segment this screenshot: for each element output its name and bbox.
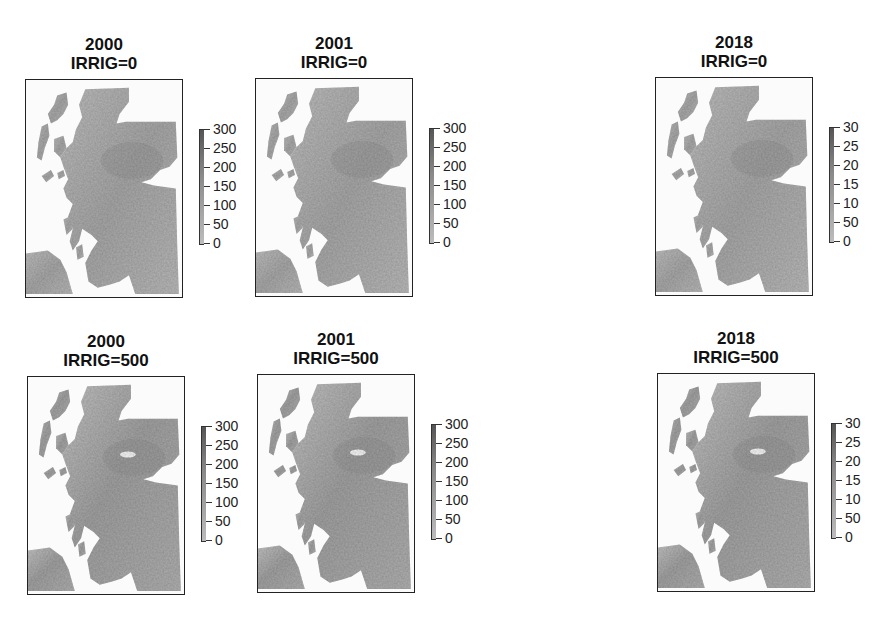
legend-tick	[434, 166, 440, 167]
mainland-region	[290, 87, 409, 293]
legend-tick-label: 150	[215, 476, 238, 490]
legend-tick	[204, 243, 210, 244]
legend-tick	[436, 538, 442, 539]
legend-tick-label: 300	[213, 122, 236, 136]
legend-tick-label: 50	[845, 511, 861, 525]
legend-tick-label: 30	[845, 416, 861, 430]
panel-subtitle: IRRIG=0	[655, 52, 813, 71]
legend-tick-label: 50	[443, 216, 459, 230]
legend-tick	[834, 203, 840, 204]
legend-tick	[434, 128, 440, 129]
map-frame	[657, 373, 815, 592]
legend-tick	[436, 443, 442, 444]
panel-year: 2000	[25, 35, 183, 54]
no-data-patch	[120, 451, 136, 457]
island-region	[57, 170, 65, 179]
legend-tick-label: 15	[845, 473, 861, 487]
island-region	[669, 417, 681, 454]
legend-tick	[204, 205, 210, 206]
legend-tick-label: 50	[445, 512, 461, 526]
island-region	[274, 465, 286, 477]
legend-tick-label: 25	[845, 435, 861, 449]
island-region	[672, 168, 684, 180]
highland-relief	[101, 142, 163, 179]
legend-tick-label: 0	[443, 235, 451, 249]
panel-year: 2001	[255, 34, 413, 53]
legend-tick-label: 100	[443, 197, 466, 211]
island-region	[689, 464, 697, 473]
island-region	[42, 170, 54, 182]
legend-tick-label: 250	[213, 141, 236, 155]
legend-tick-label: 30	[843, 120, 859, 134]
island-region	[306, 243, 314, 258]
legend-color-bar	[829, 127, 834, 243]
island-region	[687, 168, 695, 177]
panel-year: 2000	[27, 332, 185, 351]
color-legend: 3025201510500	[831, 423, 891, 553]
panel-subtitle: IRRIG=0	[255, 53, 413, 72]
legend-tick-label: 250	[445, 436, 468, 450]
highland-relief	[731, 140, 793, 177]
legend-tick	[434, 223, 440, 224]
legend-tick-label: 100	[215, 495, 238, 509]
scotland-raster	[28, 377, 184, 594]
scotland-raster	[656, 78, 812, 295]
island-region	[708, 538, 716, 554]
island-region	[256, 250, 303, 293]
legend-tick	[834, 146, 840, 147]
legend-color-bar	[201, 426, 206, 542]
legend-tick	[836, 518, 842, 519]
legend-tick	[204, 148, 210, 149]
island-region	[37, 123, 49, 160]
legend-tick	[206, 521, 212, 522]
legend-tick-label: 250	[443, 140, 466, 154]
legend-tick-label: 0	[215, 533, 223, 547]
highland-relief	[733, 436, 795, 473]
mainland-region	[692, 382, 811, 588]
map-frame	[257, 374, 415, 593]
highland-relief	[333, 437, 395, 474]
legend-tick-label: 0	[213, 236, 221, 250]
legend-tick	[204, 186, 210, 187]
legend-tick	[434, 242, 440, 243]
legend-tick	[204, 129, 210, 130]
legend-tick	[204, 167, 210, 168]
legend-tick	[206, 502, 212, 503]
legend-tick	[836, 499, 842, 500]
legend-tick-label: 200	[443, 159, 466, 173]
map-frame	[655, 77, 813, 296]
map-frame	[255, 78, 413, 297]
island-region	[44, 467, 56, 479]
highland-relief	[103, 439, 165, 476]
legend-tick-label: 150	[213, 179, 236, 193]
legend-tick	[836, 480, 842, 481]
legend-tick-label: 25	[843, 139, 859, 153]
mainland-region	[292, 383, 411, 589]
scotland-raster	[256, 79, 412, 296]
legend-tick-label: 50	[213, 217, 229, 231]
legend-tick-label: 10	[843, 196, 859, 210]
legend-color-bar	[429, 128, 434, 244]
legend-color-bar	[831, 423, 836, 539]
legend-tick-label: 150	[443, 178, 466, 192]
panel-title: 2018IRRIG=0	[655, 33, 813, 71]
legend-tick-label: 300	[445, 417, 468, 431]
mainland-region	[60, 88, 179, 294]
legend-tick-label: 20	[845, 454, 861, 468]
legend-tick-label: 10	[845, 492, 861, 506]
no-data-patch	[750, 448, 766, 454]
legend-tick	[436, 462, 442, 463]
island-region	[280, 387, 300, 418]
map-frame	[27, 376, 185, 595]
island-region	[674, 464, 686, 476]
legend-tick	[836, 537, 842, 538]
legend-tick-label: 0	[843, 234, 851, 248]
island-region	[678, 90, 698, 121]
mainland-region	[690, 86, 809, 292]
scotland-raster	[26, 80, 182, 297]
legend-tick	[204, 224, 210, 225]
legend-color-bar	[199, 129, 204, 245]
legend-tick-label: 300	[215, 419, 238, 433]
panel-year: 2018	[657, 329, 815, 348]
scotland-raster	[658, 374, 814, 591]
